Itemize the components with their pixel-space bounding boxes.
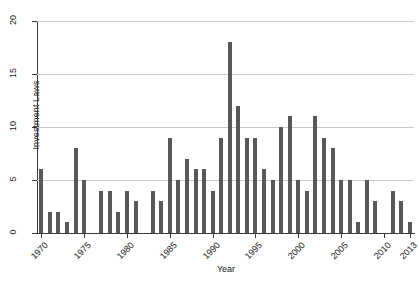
bar xyxy=(56,212,60,233)
bar xyxy=(74,148,78,233)
bar xyxy=(211,191,215,233)
y-tick-label: 10 xyxy=(8,113,18,139)
bar xyxy=(296,180,300,233)
bar xyxy=(168,138,172,233)
x-tick-mark xyxy=(41,234,42,238)
x-tick-label: 1985 xyxy=(153,240,178,265)
bar xyxy=(356,222,360,233)
bar xyxy=(305,191,309,233)
bar xyxy=(331,148,335,233)
x-tick-label: 1980 xyxy=(111,240,136,265)
bar-chart-figure: Investment Laws Year 05101520 1970197519… xyxy=(0,0,419,286)
bar xyxy=(391,191,395,233)
bar xyxy=(236,106,240,233)
x-tick-mark xyxy=(341,234,342,238)
bar xyxy=(408,222,412,233)
x-tick-label: 1970 xyxy=(25,240,50,265)
x-tick-label: 2000 xyxy=(282,240,307,265)
bar xyxy=(134,201,138,233)
bar xyxy=(176,180,180,233)
x-tick-mark xyxy=(213,234,214,238)
bar xyxy=(365,180,369,233)
bar xyxy=(219,138,223,233)
y-tick-label: 20 xyxy=(8,7,18,33)
y-tick-mark xyxy=(32,233,37,234)
bar xyxy=(288,116,292,233)
bar xyxy=(253,138,257,233)
bar xyxy=(228,42,232,233)
bar xyxy=(194,169,198,233)
bar xyxy=(82,180,86,233)
x-tick-mark xyxy=(127,234,128,238)
bar xyxy=(313,116,317,233)
x-tick-mark xyxy=(84,234,85,238)
bar xyxy=(48,212,52,233)
bar xyxy=(185,159,189,233)
bar xyxy=(65,222,69,233)
bar xyxy=(348,180,352,233)
x-axis-line xyxy=(37,233,415,234)
bar xyxy=(151,191,155,233)
bar xyxy=(245,138,249,233)
bar xyxy=(202,169,206,233)
x-tick-label: 1990 xyxy=(196,240,221,265)
y-tick-label: 5 xyxy=(8,166,18,192)
x-tick-mark xyxy=(298,234,299,238)
bar xyxy=(116,212,120,233)
bar xyxy=(373,201,377,233)
bar xyxy=(399,201,403,233)
bar xyxy=(108,191,112,233)
x-tick-label: 1975 xyxy=(68,240,93,265)
x-tick-mark xyxy=(410,234,411,238)
bar xyxy=(125,191,129,233)
bar xyxy=(322,138,326,233)
x-tick-label: 2010 xyxy=(368,240,393,265)
x-tick-mark xyxy=(170,234,171,238)
x-axis-title: Year xyxy=(36,264,416,274)
x-tick-mark xyxy=(384,234,385,238)
bar xyxy=(271,180,275,233)
bar xyxy=(339,180,343,233)
bar xyxy=(279,127,283,233)
x-tick-label: 2005 xyxy=(325,240,350,265)
x-tick-mark xyxy=(255,234,256,238)
bar xyxy=(262,169,266,233)
plot-area xyxy=(37,21,414,233)
x-tick-label: 1995 xyxy=(239,240,264,265)
bar xyxy=(99,191,103,233)
y-tick-label: 15 xyxy=(8,60,18,86)
y-tick-label: 0 xyxy=(8,219,18,245)
bar xyxy=(39,169,43,233)
bar xyxy=(159,201,163,233)
x-tick-label: 2013 xyxy=(393,240,418,265)
